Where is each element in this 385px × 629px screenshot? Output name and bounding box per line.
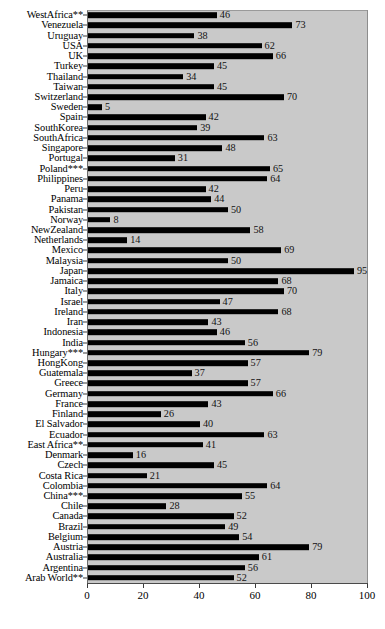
x-axis-tick bbox=[143, 584, 144, 588]
bar bbox=[88, 196, 211, 202]
y-axis-tick bbox=[83, 342, 87, 343]
bar bbox=[88, 135, 264, 141]
bar-value-label: 50 bbox=[231, 204, 241, 214]
bar-row: USA62 bbox=[0, 41, 385, 51]
bar-value-label: 45 bbox=[217, 460, 227, 470]
y-axis-tick bbox=[83, 45, 87, 46]
x-axis-line bbox=[87, 583, 368, 584]
bar-value-label: 64 bbox=[270, 174, 280, 184]
y-axis-tick bbox=[83, 35, 87, 36]
bar bbox=[88, 53, 273, 59]
bar-row: China***55 bbox=[0, 491, 385, 501]
bar-value-label: 14 bbox=[130, 235, 140, 245]
bar bbox=[88, 422, 200, 428]
y-axis-tick bbox=[83, 475, 87, 476]
bar bbox=[88, 166, 270, 172]
bar bbox=[88, 43, 262, 49]
bar bbox=[88, 94, 284, 100]
bar-value-label: 41 bbox=[206, 440, 216, 450]
bar-value-label: 8 bbox=[113, 215, 118, 225]
bar bbox=[88, 381, 248, 387]
bar bbox=[88, 524, 225, 530]
x-axis-tick-label: 20 bbox=[138, 590, 149, 601]
y-axis-tick bbox=[83, 15, 87, 16]
y-axis-tick bbox=[83, 455, 87, 456]
bar-value-label: 34 bbox=[186, 71, 196, 81]
bar-value-label: 64 bbox=[270, 481, 280, 491]
bar bbox=[88, 463, 214, 469]
bar bbox=[88, 258, 228, 264]
bar bbox=[88, 350, 309, 356]
bar bbox=[88, 299, 220, 305]
y-axis-tick bbox=[83, 25, 87, 26]
y-axis-tick bbox=[83, 547, 87, 548]
y-axis-tick bbox=[83, 250, 87, 251]
bar bbox=[88, 227, 250, 233]
bar bbox=[88, 565, 245, 571]
y-axis-tick bbox=[83, 567, 87, 568]
bar bbox=[88, 268, 354, 274]
bar-row: Jamaica68 bbox=[0, 276, 385, 286]
bar-value-label: 79 bbox=[312, 348, 322, 358]
y-axis-tick bbox=[83, 332, 87, 333]
bar bbox=[88, 391, 273, 397]
bar-row: Indonesia46 bbox=[0, 327, 385, 337]
y-axis-tick bbox=[83, 260, 87, 261]
y-axis-tick bbox=[83, 281, 87, 282]
bar-value-label: 70 bbox=[287, 92, 297, 102]
bar-value-label: 21 bbox=[150, 470, 160, 480]
bar-value-label: 44 bbox=[214, 194, 224, 204]
bar bbox=[88, 340, 245, 346]
x-axis-tick bbox=[311, 584, 312, 588]
bar bbox=[88, 442, 203, 448]
bar bbox=[88, 534, 239, 540]
y-axis-tick bbox=[83, 96, 87, 97]
x-axis-tick-label: 100 bbox=[359, 590, 376, 601]
bar-value-label: 43 bbox=[211, 399, 221, 409]
bar-value-label: 63 bbox=[267, 430, 277, 440]
y-axis-tick bbox=[83, 189, 87, 190]
bar bbox=[88, 575, 234, 581]
bar-value-label: 50 bbox=[231, 256, 241, 266]
x-axis-tick bbox=[87, 584, 88, 588]
y-axis-tick bbox=[83, 506, 87, 507]
bar bbox=[88, 319, 208, 325]
y-axis-tick bbox=[83, 168, 87, 169]
bar bbox=[88, 411, 161, 417]
bar-row: Arab World**52 bbox=[0, 573, 385, 583]
bar bbox=[88, 115, 206, 121]
bar bbox=[88, 483, 267, 489]
bar bbox=[88, 74, 183, 80]
bar bbox=[88, 432, 264, 438]
bar bbox=[88, 63, 214, 69]
y-axis-tick bbox=[83, 117, 87, 118]
y-axis-tick bbox=[83, 291, 87, 292]
bar-row: Uruguay38 bbox=[0, 30, 385, 40]
bar-value-label: 28 bbox=[169, 501, 179, 511]
bar-value-label: 54 bbox=[242, 532, 252, 542]
y-axis-tick bbox=[83, 516, 87, 517]
bar bbox=[88, 248, 281, 254]
y-axis-tick bbox=[83, 229, 87, 230]
bar-value-label: 46 bbox=[220, 327, 230, 337]
bar-value-label: 40 bbox=[203, 419, 213, 429]
bar-value-label: 52 bbox=[237, 573, 247, 583]
y-axis-tick bbox=[83, 56, 87, 57]
y-axis-tick bbox=[83, 158, 87, 159]
bar bbox=[88, 309, 278, 315]
y-axis-tick bbox=[83, 86, 87, 87]
category-label: Arab World** bbox=[25, 573, 83, 583]
bar-value-label: 37 bbox=[195, 368, 205, 378]
y-axis-tick bbox=[83, 444, 87, 445]
bar-value-label: 16 bbox=[136, 450, 146, 460]
bar bbox=[88, 514, 234, 520]
bar-value-label: 31 bbox=[178, 153, 188, 163]
bar-value-label: 79 bbox=[312, 542, 322, 552]
bar bbox=[88, 33, 194, 39]
bar bbox=[88, 370, 192, 376]
bar-row: Philippines64 bbox=[0, 174, 385, 184]
bar bbox=[88, 473, 147, 479]
bar-value-label: 68 bbox=[281, 307, 291, 317]
y-axis-tick bbox=[83, 414, 87, 415]
y-axis-tick bbox=[83, 526, 87, 527]
